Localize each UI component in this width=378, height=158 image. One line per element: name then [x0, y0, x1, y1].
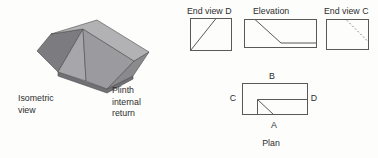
- end-view-c-hidden-splay-line: [347, 21, 368, 42]
- elevation-title: Elevation: [253, 6, 289, 16]
- end-view-d-title: End view D: [187, 6, 232, 16]
- end-view-d-outline: [191, 19, 232, 51]
- end-view-d-splay-line: [191, 19, 217, 51]
- plan-marker-b: B: [269, 71, 275, 81]
- end-view-c-drawing: [327, 20, 369, 50]
- technical-drawing-figure: Isometric view Plinth internal return En…: [0, 0, 378, 158]
- elevation-drawing: [245, 20, 317, 48]
- plan-drawing: [243, 84, 308, 115]
- end-view-c-outline: [327, 20, 369, 50]
- part-name-label-line3: return: [112, 108, 135, 118]
- plan-marker-c: C: [230, 93, 237, 103]
- isometric-view-label-line1: Isometric: [18, 93, 54, 103]
- elevation-mitre-line: [255, 20, 281, 44]
- plan-marker-a: A: [271, 120, 277, 130]
- plan-marker-d: D: [311, 93, 317, 103]
- part-name-label-line1: Plinth: [112, 85, 134, 95]
- isometric-view-drawing: [37, 20, 149, 93]
- end-view-d-drawing: [191, 19, 232, 51]
- part-name-label-line2: internal: [112, 97, 141, 107]
- isometric-view-label-line2: view: [18, 105, 36, 115]
- plan-mitre-line: [258, 100, 274, 115]
- plan-title: Plan: [262, 138, 280, 148]
- end-view-c-title: End view C: [324, 6, 369, 16]
